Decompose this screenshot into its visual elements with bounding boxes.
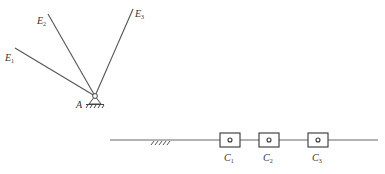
linkage-arms: [15, 9, 133, 96]
arm-e1: [15, 48, 95, 96]
arm-e2: [48, 14, 95, 96]
slider-c3: [308, 133, 328, 147]
label-a: A: [75, 99, 83, 110]
label-e1: E1: [4, 52, 14, 64]
ground-hatch: [151, 141, 170, 145]
label-e3: E3: [134, 8, 144, 20]
slider-c2: [259, 133, 279, 147]
label-c2: C2: [263, 152, 273, 164]
label-c3: C3: [312, 152, 322, 164]
fixed-pivot-a: [86, 94, 104, 108]
mechanism-diagram: E1 E2 E3 A C1 C2 C3: [0, 0, 385, 174]
slider-c1: [220, 133, 240, 147]
arm-e3: [95, 9, 133, 96]
label-c1: C1: [224, 152, 234, 164]
label-e2: E2: [36, 15, 46, 27]
